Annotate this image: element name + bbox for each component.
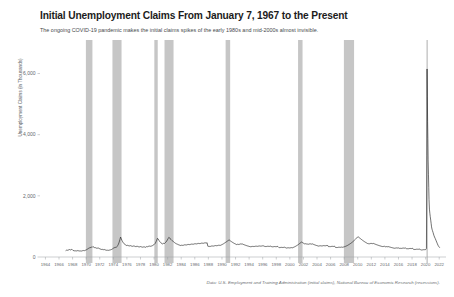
- x-tick-label: 2016: [394, 262, 404, 267]
- x-tick-label: 1990: [217, 262, 227, 267]
- recession-band: [344, 40, 354, 263]
- y-tick-label: 4,000: [23, 131, 36, 137]
- x-axis-ticks: 1964196619681970197219741976197819801982…: [41, 257, 445, 267]
- x-tick-label: 2004: [312, 262, 322, 267]
- x-tick-label: 1982: [163, 262, 173, 267]
- x-tick-label: 2020: [421, 262, 431, 267]
- claims-line-series: [66, 69, 440, 251]
- x-tick-label: 1988: [204, 262, 214, 267]
- recession-bands: [86, 40, 428, 263]
- recession-band: [298, 40, 302, 263]
- x-tick-label: 2022: [434, 262, 444, 267]
- x-tick-label: 2014: [380, 262, 390, 267]
- recession-band: [165, 40, 174, 263]
- x-tick-label: 1998: [271, 262, 281, 267]
- source-caption: Data: U.S. Employment and Training Admin…: [206, 280, 440, 285]
- recession-band: [226, 40, 231, 263]
- x-tick-label: 1964: [41, 262, 51, 267]
- x-tick-label: 2012: [367, 262, 377, 267]
- recession-band: [154, 40, 157, 263]
- recession-band: [112, 40, 121, 263]
- x-tick-label: 1984: [176, 262, 186, 267]
- x-tick-label: 1972: [95, 262, 105, 267]
- y-tick-label: 2,000: [23, 193, 36, 199]
- x-tick-label: 1992: [231, 262, 241, 267]
- x-tick-label: 1974: [109, 262, 119, 267]
- plot-area: 02,0004,0006,000 19641966196819701972197…: [0, 0, 454, 297]
- x-tick-label: 1970: [81, 262, 91, 267]
- x-tick-label: 1996: [258, 262, 268, 267]
- x-tick-label: 2000: [285, 262, 295, 267]
- x-tick-label: 2018: [407, 262, 417, 267]
- x-tick-label: 2008: [339, 262, 349, 267]
- x-tick-label: 2002: [299, 262, 309, 267]
- chart-figure: Initial Unemployment Claims From January…: [0, 0, 454, 297]
- x-tick-label: 2006: [326, 262, 336, 267]
- recession-band: [86, 40, 93, 263]
- x-tick-label: 1994: [244, 262, 254, 267]
- x-tick-label: 1980: [149, 262, 159, 267]
- x-tick-label: 1978: [136, 262, 146, 267]
- y-tick-label: 6,000: [23, 70, 36, 76]
- x-tick-label: 2010: [353, 262, 363, 267]
- x-tick-label: 1976: [122, 262, 132, 267]
- y-tick-label: 0: [33, 254, 36, 260]
- x-tick-label: 1966: [54, 262, 64, 267]
- x-tick-label: 1986: [190, 262, 200, 267]
- y-axis-ticks: 02,0004,0006,000: [23, 70, 40, 259]
- x-tick-label: 1968: [68, 262, 78, 267]
